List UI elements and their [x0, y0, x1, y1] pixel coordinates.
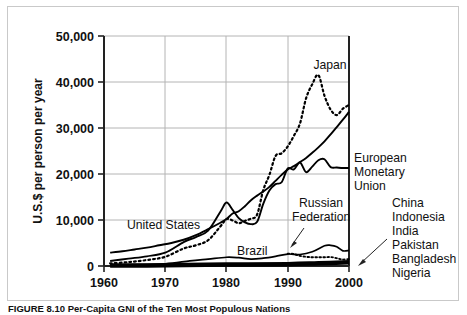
y-tick-label-10000: 10,000 — [56, 214, 94, 228]
y-axis-title: U.S.$ per person per year — [31, 78, 45, 224]
label-japan: Japan — [313, 58, 346, 72]
label-emu-line1: European — [354, 151, 407, 165]
label-cluster-china: China — [392, 196, 424, 210]
label-brazil: Brazil — [237, 244, 267, 258]
label-russia-line1: Russian — [299, 196, 343, 210]
label-cluster-india: India — [392, 224, 419, 238]
label-cluster-indonesia: Indonesia — [392, 210, 445, 224]
y-tick-label-0: 0 — [87, 260, 94, 274]
label-russia-line2: Federation — [292, 210, 350, 224]
label-cluster-nigeria: Nigeria — [392, 266, 431, 280]
y-tick-label-30000: 30,000 — [56, 122, 94, 136]
label-united-states: United States — [127, 218, 200, 232]
label-cluster-bangladesh: Bangladesh — [392, 252, 456, 266]
figure-frame: 50,000 40,000 30,000 20,000 10,000 0 196… — [7, 6, 459, 301]
gni-per-capita-line-chart: 50,000 40,000 30,000 20,000 10,000 0 196… — [8, 7, 458, 300]
x-tick-label-2000: 2000 — [335, 276, 363, 290]
label-emu-line2: Monetary — [354, 165, 406, 179]
cluster-annotation-arrow — [358, 239, 387, 266]
y-tick-label-40000: 40,000 — [56, 76, 94, 90]
y-tick-label-50000: 50,000 — [56, 30, 94, 44]
x-tick-label-1970: 1970 — [151, 276, 179, 290]
x-tick-label-1960: 1960 — [90, 276, 118, 290]
x-tick-label-1990: 1990 — [274, 276, 302, 290]
label-emu-line3: Union — [354, 179, 386, 193]
y-tick-label-20000: 20,000 — [56, 168, 94, 182]
label-cluster-pakistan: Pakistan — [392, 238, 439, 252]
figure-caption: FIGURE 8.10 Per-Capita GNI of the Ten Mo… — [8, 303, 458, 314]
x-tick-label-1980: 1980 — [212, 276, 240, 290]
